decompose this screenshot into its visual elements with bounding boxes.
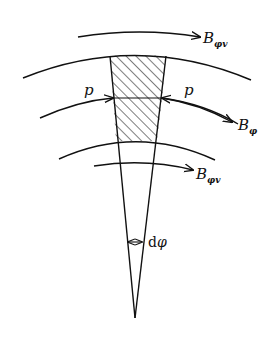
label-p-right: p [184,81,194,99]
b-top-arrow [78,32,200,37]
label-p-left: p [84,81,94,99]
hatched-element-lower [113,98,162,141]
b-bottom-arrow [94,163,193,170]
label-b-top: Bφv [202,29,228,49]
inner-arc [59,142,215,160]
label-b-bottom: Bφv [195,165,221,185]
label-dphi: dφ [148,234,167,250]
sector-diagram: Bφv Bφ Bφv p p dφ [0,0,275,338]
label-b-mid: Bφ [237,116,258,136]
middle-arc-right [162,98,238,124]
middle-arc-left [40,98,113,118]
b-phi-arrow [162,98,232,122]
hatched-element-upper [110,55,166,98]
